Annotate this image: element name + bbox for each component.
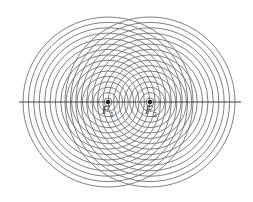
two-foci-circle-diagram — [0, 0, 253, 202]
focus-label-f1-subscript: 1 — [110, 111, 114, 119]
focus-label-f1-letter: F — [102, 104, 110, 117]
focus-label-f1: F1 — [102, 105, 114, 119]
focus-label-f2-letter: F — [145, 104, 153, 117]
focus-label-f2: F2 — [145, 105, 157, 119]
focus-label-f2-subscript: 2 — [153, 111, 157, 119]
